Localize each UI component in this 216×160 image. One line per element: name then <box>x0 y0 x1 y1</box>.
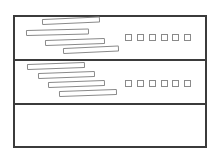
small-square <box>184 80 191 87</box>
small-square <box>125 80 132 87</box>
small-square <box>149 80 156 87</box>
small-square <box>161 34 168 41</box>
wireframe-canvas <box>0 0 216 160</box>
small-square <box>172 80 179 87</box>
small-square <box>172 34 179 41</box>
list-row-3 <box>13 104 207 148</box>
small-square <box>137 34 144 41</box>
small-square <box>149 34 156 41</box>
small-square <box>184 34 191 41</box>
small-square <box>161 80 168 87</box>
small-square <box>125 34 132 41</box>
small-square <box>137 80 144 87</box>
